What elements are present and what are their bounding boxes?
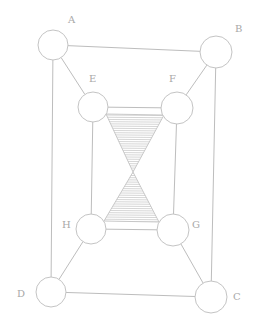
label-c: C (233, 291, 241, 302)
edge-a-e (61, 58, 85, 95)
edge-b-f (186, 65, 207, 95)
node-h (76, 214, 106, 244)
edge-e-h (91, 122, 93, 214)
label-h: H (62, 219, 71, 230)
upper-triangle-hatch (102, 115, 168, 171)
label-d: D (17, 288, 25, 299)
node-d (36, 277, 66, 307)
node-f (161, 92, 193, 124)
graph-diagram: ABEFHGDC (0, 0, 261, 332)
node-e (78, 92, 108, 122)
label-b: B (235, 23, 242, 34)
label-a: A (67, 14, 76, 25)
edge-g-c (181, 244, 203, 283)
nodes-group (36, 30, 232, 313)
edge-a-b (68, 46, 200, 52)
node-g (157, 214, 189, 246)
label-e: E (89, 73, 96, 84)
node-a (38, 30, 68, 60)
edge-d-c (66, 292, 195, 296)
edge-h-d (59, 242, 83, 280)
node-c (195, 281, 227, 313)
upper-triangle-outline (106, 114, 164, 172)
edge-f-g (174, 124, 177, 214)
edge-b-c (211, 68, 215, 281)
edge-e-f (108, 107, 161, 108)
label-f: F (169, 73, 176, 84)
hourglass-shading (100, 114, 168, 222)
node-b (200, 36, 232, 68)
label-g: G (192, 219, 200, 230)
lower-triangle-outline (104, 172, 159, 222)
lower-triangle-hatch (100, 173, 163, 222)
edge-a-d (51, 60, 53, 277)
edge-h-g (106, 229, 157, 230)
